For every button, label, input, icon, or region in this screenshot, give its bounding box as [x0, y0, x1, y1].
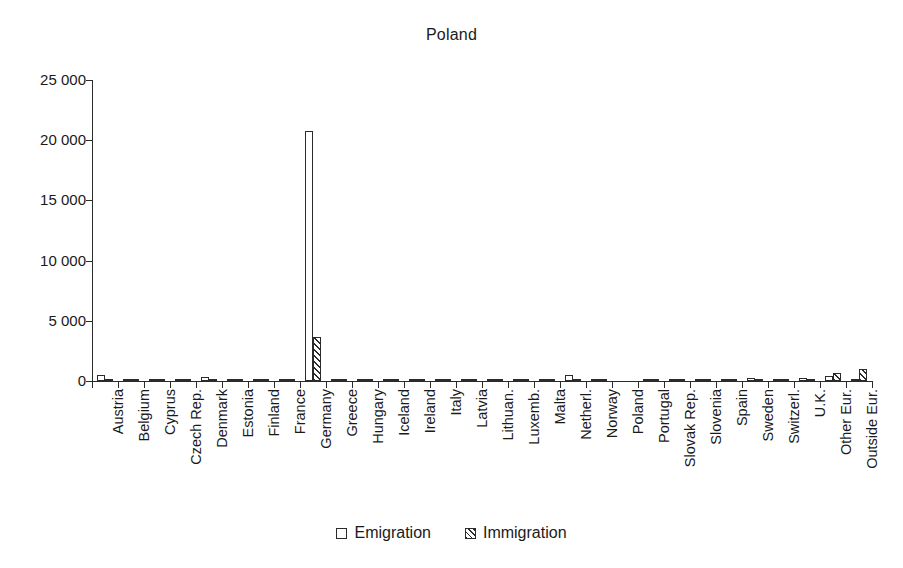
y-axis-tick-label: 10 000	[0, 252, 86, 269]
bar-group	[513, 80, 529, 381]
x-axis-category-label: Norway	[605, 389, 620, 438]
bar-immigration	[547, 379, 555, 382]
legend-item-label: Emigration	[354, 524, 430, 542]
bar-emigration	[539, 379, 547, 382]
y-axis-tick-mark	[86, 321, 92, 322]
y-axis-tick-mark	[86, 261, 92, 262]
bar-group	[227, 80, 243, 381]
bar-emigration	[513, 379, 521, 382]
bar-emigration	[747, 378, 755, 381]
x-axis-category-label: Sweden	[761, 389, 776, 441]
y-axis-tick-labels: 05 00010 00015 00020 00025 000	[0, 0, 86, 568]
bar-group	[383, 80, 399, 381]
x-axis-category-label: Hungary	[371, 389, 386, 444]
bar-group	[97, 80, 113, 381]
bar-emigration	[97, 375, 105, 381]
bar-group	[721, 80, 737, 381]
bar-immigration	[495, 379, 503, 382]
bar-group	[279, 80, 295, 381]
open-square-icon	[336, 528, 347, 539]
bar-emigration	[799, 378, 807, 381]
legend-item[interactable]: Immigration	[465, 524, 567, 542]
x-axis-category-label: U.K.	[813, 389, 828, 417]
bar-immigration	[755, 379, 763, 382]
x-axis-category-label: Spain	[735, 389, 750, 426]
bar-immigration	[469, 379, 477, 382]
bar-group	[617, 80, 633, 381]
bar-immigration	[729, 379, 737, 382]
x-axis-category-label: Denmark	[215, 389, 230, 448]
x-axis-tick-mark	[456, 382, 457, 388]
plot-area	[92, 80, 872, 381]
x-axis-tick-mark	[690, 382, 691, 388]
bar-group	[643, 80, 659, 381]
bar-group	[461, 80, 477, 381]
x-axis-category-labels: AustriaBelgiumCyprusCzech Rep.DenmarkEst…	[92, 389, 873, 519]
bar-group	[747, 80, 763, 381]
bar-group	[565, 80, 581, 381]
x-axis-tick-mark	[352, 382, 353, 388]
bar-immigration	[833, 373, 841, 381]
bar-immigration	[261, 379, 269, 382]
x-axis-tick-mark	[248, 382, 249, 388]
y-axis-tick-label: 20 000	[0, 131, 86, 148]
bar-group	[851, 80, 867, 381]
bar-emigration	[305, 131, 313, 381]
bar-emigration	[409, 379, 417, 382]
bar-emigration	[383, 379, 391, 382]
bar-emigration	[721, 379, 729, 382]
x-axis-category-label: Slovenia	[709, 389, 724, 445]
bar-emigration	[591, 379, 599, 382]
bar-emigration	[461, 379, 469, 382]
bar-immigration	[599, 379, 607, 382]
x-axis-tick-mark	[742, 382, 743, 388]
bar-emigration	[669, 379, 677, 382]
bar-emigration	[253, 379, 261, 382]
x-axis-tick-mark	[820, 382, 821, 388]
y-axis-tick-mark	[86, 200, 92, 201]
bar-immigration	[807, 379, 815, 382]
x-axis-tick-mark	[222, 382, 223, 388]
x-axis-tick-mark	[612, 382, 613, 388]
x-axis-category-label: Portugal	[657, 389, 672, 443]
bar-group	[149, 80, 165, 381]
x-axis-tick-mark	[508, 382, 509, 388]
x-axis-category-label: Greece	[345, 389, 360, 437]
x-axis-category-label: Outside Eur.	[865, 389, 880, 469]
bar-emigration	[565, 375, 573, 381]
y-axis-tick-mark	[86, 80, 92, 81]
x-axis-tick-mark	[664, 382, 665, 388]
x-axis-tick-mark	[638, 382, 639, 388]
x-axis-tick-mark	[144, 382, 145, 388]
bar-group	[695, 80, 711, 381]
legend-item-label: Immigration	[483, 524, 567, 542]
x-axis-tick-mark	[196, 382, 197, 388]
x-axis-tick-mark	[534, 382, 535, 388]
y-axis-tick-label: 25 000	[0, 71, 86, 88]
bar-group	[487, 80, 503, 381]
chart-title: Poland	[0, 26, 903, 44]
bar-emigration	[149, 379, 157, 382]
bar-emigration	[435, 379, 443, 382]
bar-emigration	[643, 379, 651, 382]
x-axis-tick-mark	[846, 382, 847, 388]
bar-group	[253, 80, 269, 381]
bar-immigration	[105, 379, 113, 382]
x-axis-tick-mark	[716, 382, 717, 388]
bar-group	[591, 80, 607, 381]
legend-item[interactable]: Emigration	[336, 524, 430, 542]
hatched-square-icon	[465, 528, 476, 539]
x-axis-category-label: Lithuan.	[501, 389, 516, 441]
x-axis-category-label: Cyprus	[163, 389, 178, 435]
x-axis-category-label: Luxemb.	[527, 389, 542, 445]
x-axis-category-label: Italy	[449, 389, 464, 416]
x-axis-tick-mark	[274, 382, 275, 388]
bar-emigration	[201, 377, 209, 381]
bar-immigration	[573, 379, 581, 382]
bar-group	[331, 80, 347, 381]
bar-group	[409, 80, 425, 381]
x-axis-tick-mark	[170, 382, 171, 388]
x-axis-category-label: Germany	[319, 389, 334, 449]
bar-immigration	[391, 379, 399, 382]
bar-emigration	[825, 376, 833, 381]
